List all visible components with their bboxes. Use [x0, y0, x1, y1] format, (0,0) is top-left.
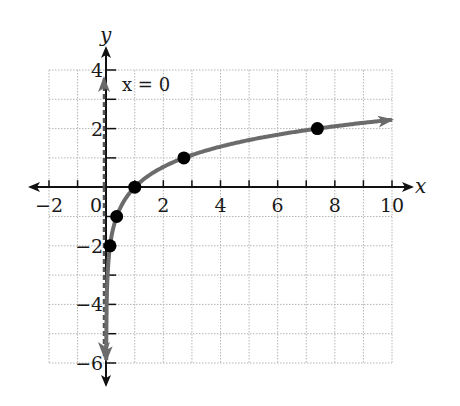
x-tick-label: 6 [272, 194, 284, 216]
y-tick-label: 2 [91, 118, 103, 140]
asymptote-label: x = 0 [122, 74, 170, 95]
log-curve-lower [106, 218, 116, 360]
y-tick-label: −4 [75, 293, 103, 315]
x-axis-label: x [415, 174, 426, 198]
data-point [311, 122, 324, 135]
x-tick-label: 10 [380, 194, 404, 216]
data-point [177, 151, 190, 164]
y-axis-label: y [99, 23, 112, 47]
data-point [104, 239, 117, 252]
y-tick-label: −2 [75, 235, 103, 257]
data-point [110, 210, 123, 223]
y-tick-label: 4 [91, 59, 103, 81]
data-point [128, 181, 141, 194]
x-tick-label: 8 [329, 194, 341, 216]
grid [49, 70, 392, 363]
log-graph: −2024681042−2−4−6 x = 0 x y [0, 0, 460, 406]
tick-labels: −2024681042−2−4−6 [35, 59, 404, 374]
x-tick-label: 0 [90, 194, 102, 216]
x-tick-label: 4 [214, 194, 226, 216]
x-tick-label: −2 [35, 194, 63, 216]
x-tick-label: 2 [157, 194, 169, 216]
y-tick-label: −6 [75, 352, 103, 374]
